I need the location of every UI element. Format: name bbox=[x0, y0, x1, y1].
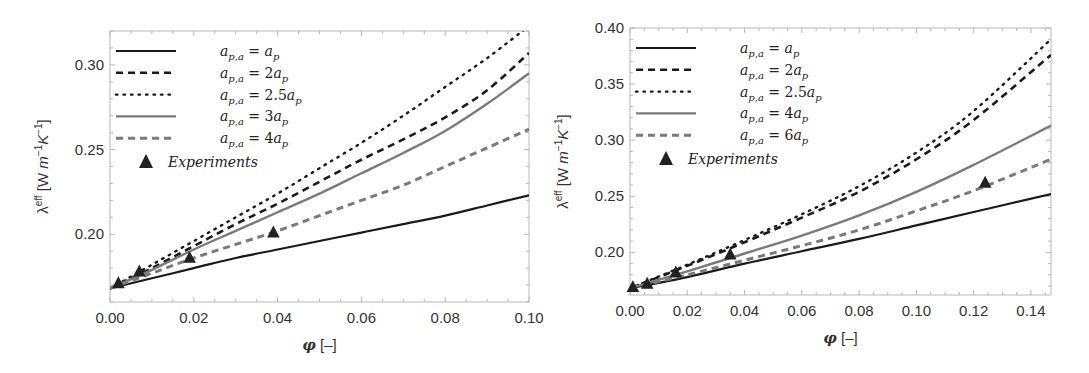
x-tick-label: 0.10 bbox=[514, 309, 543, 326]
y-tick-label: 0.30 bbox=[75, 56, 104, 73]
legend-label: ap,a = ap bbox=[740, 40, 800, 59]
legend-label-experiments: Experiments bbox=[167, 154, 258, 170]
legend-label: ap,a = 6ap bbox=[740, 127, 809, 146]
y-tick-label: 0.20 bbox=[595, 243, 624, 260]
y-axis-label: λeff [W m−1K−1] bbox=[553, 114, 571, 209]
legend-experiment-marker bbox=[659, 151, 673, 165]
x-tick-label: 0.00 bbox=[95, 309, 124, 326]
x-tick-label: 0.04 bbox=[263, 309, 292, 326]
series-line-2 bbox=[630, 55, 1051, 288]
x-tick-label: 0.02 bbox=[179, 309, 208, 326]
left-chart: 0.000.020.040.060.080.100.200.250.30φ [–… bbox=[33, 26, 544, 354]
y-tick-label: 0.35 bbox=[595, 75, 624, 92]
right-chart: 0.000.020.040.060.080.100.120.140.200.25… bbox=[553, 19, 1051, 347]
experiment-marker bbox=[979, 176, 992, 188]
x-tick-label: 0.08 bbox=[431, 309, 460, 326]
legend-label: ap,a = 2.5ap bbox=[220, 87, 302, 106]
x-tick-label: 0.12 bbox=[959, 302, 988, 319]
figure: 0.000.020.040.060.080.100.200.250.30φ [–… bbox=[0, 0, 1089, 373]
x-tick-label: 0.06 bbox=[787, 302, 816, 319]
x-tick-label: 0.04 bbox=[730, 302, 759, 319]
y-axis-label: λeff [W m−1K−1] bbox=[33, 119, 51, 214]
x-tick-label: 0.06 bbox=[347, 309, 376, 326]
legend: ap,a = apap,a = 2apap,a = 2.5apap,a = 4a… bbox=[636, 40, 822, 167]
x-tick-label: 0.02 bbox=[673, 302, 702, 319]
experiment-marker bbox=[724, 248, 737, 260]
legend-label: ap,a = 4ap bbox=[220, 130, 289, 149]
experiment-marker bbox=[267, 226, 280, 238]
x-tick-label: 0.14 bbox=[1016, 302, 1045, 319]
series-line-2 bbox=[110, 53, 529, 288]
legend-label: ap,a = 2.5ap bbox=[740, 84, 822, 103]
legend-label: ap,a = 2ap bbox=[220, 65, 289, 84]
legend-experiment-marker bbox=[139, 154, 153, 168]
series-line-4 bbox=[630, 126, 1051, 289]
x-tick-label: 0.10 bbox=[902, 302, 931, 319]
x-tick-label: 0.08 bbox=[845, 302, 874, 319]
x-axis-label: φ [–] bbox=[302, 336, 336, 354]
legend-label-experiments: Experiments bbox=[687, 151, 778, 167]
legend-label: ap,a = ap bbox=[220, 43, 280, 62]
legend: ap,a = apap,a = 2apap,a = 2.5apap,a = 3a… bbox=[116, 43, 302, 170]
y-tick-label: 0.25 bbox=[595, 187, 624, 204]
x-axis-label: φ [–] bbox=[823, 329, 857, 347]
legend-label: ap,a = 2ap bbox=[740, 62, 809, 81]
legend-label: ap,a = 3ap bbox=[220, 108, 289, 127]
y-tick-label: 0.20 bbox=[75, 225, 104, 242]
y-tick-label: 0.40 bbox=[595, 19, 624, 36]
legend-label: ap,a = 4ap bbox=[740, 105, 809, 124]
y-tick-label: 0.25 bbox=[75, 141, 104, 158]
y-tick-label: 0.30 bbox=[595, 131, 624, 148]
series-line-1 bbox=[110, 195, 529, 288]
x-tick-label: 0.00 bbox=[615, 302, 644, 319]
